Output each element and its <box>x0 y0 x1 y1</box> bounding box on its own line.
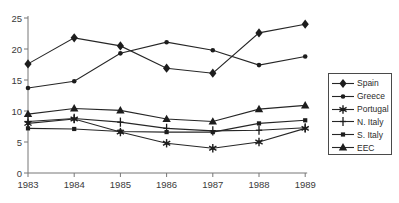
series-spain <box>24 20 308 78</box>
y-tick-label: 15 <box>11 75 22 86</box>
y-tick-label: 5 <box>17 137 22 148</box>
x-tick-label: 1987 <box>202 179 223 190</box>
legend-item-n-italy: N. Italy <box>331 116 391 128</box>
x-tick-label: 1986 <box>156 179 177 190</box>
square-marker-icon <box>331 129 355 140</box>
legend: SpainGreecePortugalN. ItalyS. ItalyEEC <box>328 73 392 155</box>
triangle-marker-icon <box>331 142 355 153</box>
y-tick-label: 0 <box>17 168 22 179</box>
legend-label: Greece <box>357 90 385 102</box>
legend-label: N. Italy <box>357 116 383 128</box>
series-eec <box>24 101 310 125</box>
x-tick-label: 1988 <box>248 179 269 190</box>
legend-label: EEC <box>357 142 374 154</box>
x-tick-label: 1985 <box>110 179 131 190</box>
legend-label: Spain <box>357 77 379 89</box>
legend-item-greece: Greece <box>331 90 391 102</box>
line-chart: 05101520251983198419851986198719881989 S… <box>0 0 399 203</box>
x-tick-label: 1983 <box>17 179 38 190</box>
diamond-marker-icon <box>331 78 355 89</box>
legend-label: S. Italy <box>357 129 383 141</box>
plus-marker-icon <box>331 116 355 127</box>
y-tick-label: 25 <box>11 13 22 24</box>
y-tick-label: 20 <box>11 44 22 55</box>
circle-marker-icon <box>331 91 355 102</box>
x-tick-label: 1984 <box>64 179 85 190</box>
star-marker-icon <box>331 104 355 115</box>
legend-item-portugal: Portugal <box>331 103 391 115</box>
x-tick-label: 1989 <box>295 179 316 190</box>
legend-label: Portugal <box>357 103 389 115</box>
legend-item-eec: EEC <box>331 142 391 154</box>
legend-item-spain: Spain <box>331 77 391 89</box>
legend-item-s-italy: S. Italy <box>331 129 391 141</box>
axes: 05101520251983198419851986198719881989 <box>11 13 315 191</box>
y-tick-label: 10 <box>11 106 22 117</box>
